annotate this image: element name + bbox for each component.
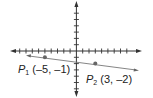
label-p1-sub: 1: [25, 69, 29, 76]
line-left-arrow-icon: [26, 54, 31, 57]
y-axis: [74, 1, 79, 97]
line-right-arrow-icon: [134, 68, 139, 71]
label-p1-coords: (–5, –1): [32, 63, 70, 75]
point-p2: [93, 62, 97, 66]
y-axis-down-arrow-icon: [74, 91, 78, 97]
label-p2-coords: (3, –2): [100, 73, 132, 85]
y-axis-up-arrow-icon: [74, 1, 78, 7]
label-p2-sub: 2: [93, 79, 97, 86]
x-axis-right-arrow-icon: [136, 49, 142, 53]
x-axis-left-arrow-icon: [10, 49, 16, 53]
point-p1: [43, 55, 47, 59]
label-p1: P1 (–5, –1): [18, 64, 70, 76]
label-p2: P2 (3, –2): [86, 74, 132, 86]
